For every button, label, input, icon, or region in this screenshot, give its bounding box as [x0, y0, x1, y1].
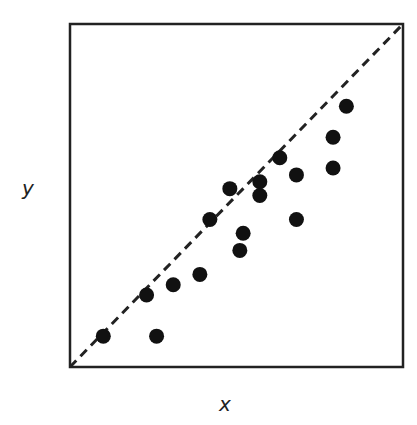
data-points: [96, 99, 354, 344]
data-point: [236, 226, 251, 241]
data-point: [232, 243, 247, 258]
data-point: [252, 174, 267, 189]
data-point: [149, 329, 164, 344]
data-point: [252, 188, 267, 203]
data-point: [139, 287, 154, 302]
data-point: [202, 212, 217, 227]
data-point: [326, 130, 341, 145]
y-axis-label: y: [22, 176, 34, 200]
data-point: [339, 99, 354, 114]
identity-reference-line: [70, 24, 403, 367]
x-axis-label: x: [219, 392, 231, 416]
data-point: [222, 181, 237, 196]
data-point: [272, 150, 287, 165]
data-point: [326, 161, 341, 176]
data-point: [166, 277, 181, 292]
scatter-plot: [0, 0, 417, 425]
data-point: [96, 329, 111, 344]
data-point: [289, 167, 304, 182]
data-point: [192, 267, 207, 282]
data-point: [289, 212, 304, 227]
